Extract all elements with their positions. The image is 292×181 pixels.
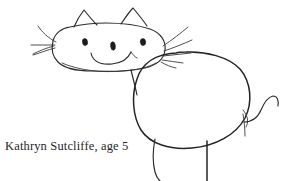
drawing-page: Kathryn Sutcliffe, age 5 [0, 0, 292, 181]
mouth-icon [91, 52, 131, 64]
front-leg-icon [153, 139, 160, 181]
right-eye-icon [140, 38, 146, 46]
middle-eye-icon [110, 42, 116, 51]
cat-drawing [0, 0, 292, 181]
right-ear-icon [121, 8, 147, 26]
left-eye-icon [82, 38, 88, 46]
mouth-right-tick [131, 52, 137, 58]
artist-caption: Kathryn Sutcliffe, age 5 [5, 139, 128, 153]
